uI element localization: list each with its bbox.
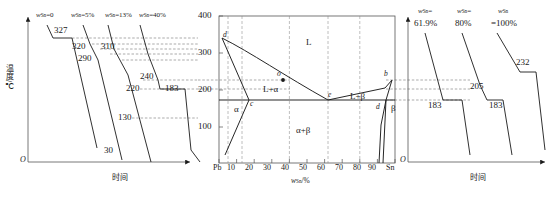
middle-xtick-50: 50 — [299, 164, 307, 172]
left-composition-header-2: wSn=13% — [105, 12, 132, 19]
left-composition-header-3: wSn=40% — [139, 12, 166, 19]
middle-xtick-30: 30 — [263, 164, 271, 172]
right-composition-header-0: wSn= — [418, 8, 432, 15]
left-curve-wsn-40 — [140, 25, 200, 162]
right-composition-value-0: 61.9% — [414, 19, 437, 28]
region-label-L-alpha: L+α — [263, 85, 278, 94]
right-temp-232: 232 — [516, 58, 530, 67]
point-label-o: o — [277, 70, 281, 78]
left-origin-label: O — [20, 156, 26, 164]
middle-xtick-sn: Sn — [386, 164, 394, 172]
left-temp-327: 327 — [54, 26, 68, 35]
region-label-alpha-beta: α+β — [296, 126, 310, 135]
left-composition-header-1: wSn=5% — [71, 12, 94, 19]
point-o-marker — [281, 78, 285, 82]
middle-composition-guides — [228, 16, 360, 163]
point-label-b: b — [384, 70, 388, 78]
middle-xtick-70: 70 — [335, 164, 343, 172]
point-label-d-right: d — [376, 103, 380, 111]
middle-xtick-60: 60 — [317, 164, 325, 172]
region-label-L-beta: L+β — [350, 92, 365, 101]
middle-xtick-20: 20 — [245, 164, 253, 172]
left-y-axis-label: 温度/℃ — [4, 64, 12, 91]
middle-ytick-400: 400 — [198, 11, 212, 20]
right-temp-205: 205 — [470, 82, 484, 91]
left-temp-320: 320 — [72, 42, 86, 51]
left-temp-220: 220 — [126, 84, 140, 93]
left-temp-310: 310 — [101, 42, 115, 51]
middle-ytick-100: 100 — [198, 122, 212, 131]
middle-ytick-300: 300 — [198, 48, 212, 57]
right-x-axis-label: 时间 — [470, 174, 486, 182]
right-temp-183-b: 183 — [489, 101, 503, 110]
left-temp-240: 240 — [140, 72, 154, 81]
left-x-axis-label: 时间 — [112, 174, 128, 182]
right-composition-header-1: wSn= — [457, 8, 471, 15]
middle-xtick-40: 40 — [281, 164, 289, 172]
middle-ytick-200: 200 — [198, 85, 212, 94]
region-label-alpha: α — [234, 105, 239, 114]
left-temp-183: 183 — [165, 84, 179, 93]
middle-x-axis-label: wSn/% — [291, 177, 310, 185]
left-composition-header-0: wSn=0 — [36, 12, 54, 19]
point-label-c: c — [250, 100, 253, 108]
right-composition-value-1: 80% — [455, 19, 472, 28]
right-curve-wsn-100 — [497, 33, 545, 150]
middle-xtick-pb: Pb — [213, 164, 221, 172]
right-composition-header-2: wSn — [498, 8, 508, 15]
figure-root: 温度/℃ O 时间 wSn=0 wSn=5% wSn=13% wSn=40% 3… — [0, 0, 552, 198]
figure-svg — [0, 0, 552, 198]
point-label-e: e — [328, 91, 331, 99]
left-guide-lines — [72, 38, 198, 118]
middle-xtick-80: 80 — [353, 164, 361, 172]
region-label-L: L — [306, 38, 312, 47]
region-label-beta: β — [391, 104, 396, 113]
point-label-d-left: d — [223, 31, 227, 39]
middle-xtick-10: 10 — [227, 164, 235, 172]
left-temp-290: 290 — [78, 54, 92, 63]
left-temp-30: 30 — [104, 146, 113, 155]
middle-xtick-90: 90 — [368, 164, 376, 172]
right-temp-183-a: 183 — [428, 101, 442, 110]
right-composition-value-2: =100% — [491, 19, 517, 28]
middle-right-connectors — [386, 80, 470, 100]
right-curve-wsn-80 — [462, 33, 512, 155]
right-origin-label: O — [400, 156, 406, 164]
phase-boundaries — [219, 38, 395, 163]
left-temp-130: 130 — [118, 113, 132, 122]
right-curve-wsn-61-9 — [425, 33, 470, 155]
